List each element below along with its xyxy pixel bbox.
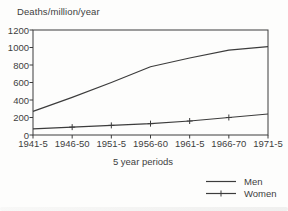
y-tick-label: 400 [0, 95, 29, 106]
y-tick-label: 1200 [0, 25, 29, 36]
x-tick-label: 1946-50 [50, 138, 94, 149]
x-tick-label: 1951-5 [89, 138, 133, 149]
legend-item-women: Women [205, 188, 280, 199]
axis-frame [33, 30, 268, 135]
x-tick-label: 1961-5 [168, 138, 212, 149]
x-tick-label: 1971-5 [246, 138, 288, 149]
x-tick-label: 1956-60 [129, 138, 173, 149]
men-line-swatch [205, 177, 237, 186]
legend: Men Women [205, 176, 280, 200]
y-tick-label: 1000 [0, 42, 29, 53]
chart-figure: Deaths/million/year 1200 1000 800 600 40… [0, 0, 288, 211]
legend-label-women: Women [244, 189, 277, 199]
legend-label-men: Men [244, 177, 262, 187]
women-line-swatch [205, 189, 237, 198]
y-tick-label: 600 [0, 77, 29, 88]
y-tick-label: 200 [0, 112, 29, 123]
scan-artifact [0, 207, 288, 211]
x-axis-title: 5 year periods [83, 156, 203, 167]
x-tick-label: 1941-5 [11, 138, 55, 149]
y-tick-label: 800 [0, 60, 29, 71]
men-line [33, 47, 268, 112]
x-tick-label: 1966-70 [207, 138, 251, 149]
legend-item-men: Men [205, 176, 280, 187]
